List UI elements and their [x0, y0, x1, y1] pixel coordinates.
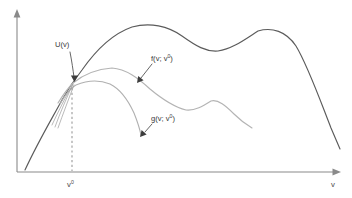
label-surrogate-g-close: ) — [172, 114, 175, 123]
label-objective-u: U(v) — [55, 40, 70, 49]
figure-canvas: U(v) f(v; v0) g(v; v0) v0 v — [0, 0, 352, 198]
label-surrogate-f-base: f(v; v — [151, 54, 168, 63]
x-tick-label-v0: v0 — [67, 179, 74, 189]
leader-line-g — [145, 124, 152, 132]
x-axis — [17, 169, 341, 176]
annotation-f: f(v; v0) — [137, 53, 173, 83]
y-axis-arrowhead — [14, 9, 21, 18]
x-tick-label-v0-sup: 0 — [71, 179, 74, 185]
leader-line-u — [70, 52, 74, 77]
y-axis — [14, 9, 21, 172]
annotation-u: U(v) — [55, 40, 78, 82]
annotation-g: g(v; v0) — [140, 113, 175, 137]
diagram-svg: U(v) f(v; v0) g(v; v0) v0 v — [0, 0, 352, 198]
tangent-wisp-2 — [55, 84, 73, 127]
leader-arrowhead-u — [71, 75, 78, 82]
label-surrogate-g: g(v; v0) — [151, 113, 175, 123]
label-surrogate-f: f(v; v0) — [151, 53, 173, 63]
x-axis-label: v — [331, 180, 335, 189]
curve-objective-u — [25, 25, 340, 170]
leader-line-f — [141, 64, 152, 78]
x-axis-arrowhead — [333, 169, 342, 176]
label-surrogate-f-close: ) — [170, 54, 173, 63]
label-surrogate-g-base: g(v; v — [151, 114, 170, 123]
